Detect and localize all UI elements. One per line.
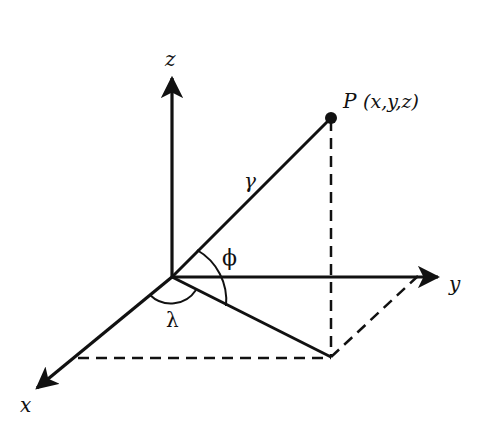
projection-line: [172, 277, 331, 357]
point-name-label: P: [342, 89, 357, 113]
projection-diagonal-dashed: [331, 276, 418, 357]
point-p: [325, 112, 337, 124]
z-axis-label: z: [164, 47, 176, 71]
coordinate-diagram: z y x P (x,y,z) γ ϕ λ: [0, 0, 484, 425]
radius-label: γ: [244, 169, 256, 193]
radius-vector: [172, 118, 331, 277]
x-axis: [37, 277, 172, 388]
y-axis-label: y: [448, 272, 461, 296]
point-coords-label: (x,y,z): [363, 90, 419, 112]
azimuth-angle-label: λ: [166, 308, 179, 332]
x-axis-label: x: [20, 393, 31, 417]
elevation-angle-label: ϕ: [222, 245, 237, 270]
azimuth-angle-arc: [150, 290, 196, 304]
